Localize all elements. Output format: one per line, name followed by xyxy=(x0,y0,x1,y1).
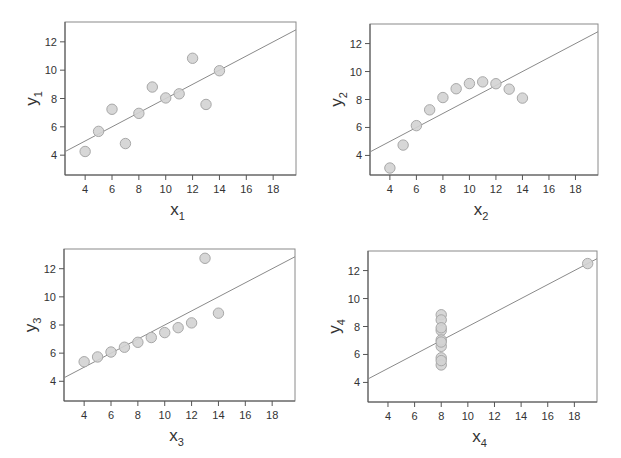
y-tick-label: 12 xyxy=(44,263,56,275)
x-tick-label: 12 xyxy=(185,409,197,421)
x-tick-label: 18 xyxy=(267,183,279,195)
data-point xyxy=(80,146,90,156)
data-point xyxy=(438,92,448,102)
y-tick-label: 8 xyxy=(50,319,56,331)
y-tick-label: 8 xyxy=(354,321,360,333)
x-tick-label: 16 xyxy=(239,409,251,421)
x-tick-label: 6 xyxy=(413,183,419,195)
y-tick-label: 4 xyxy=(354,376,360,388)
plot-frame xyxy=(370,24,598,175)
x-axis-label: x3 xyxy=(169,426,184,448)
y-tick-label: 8 xyxy=(51,93,57,105)
data-point xyxy=(491,79,501,89)
data-point xyxy=(107,104,117,114)
anscombe-quartet-chart: 46810121416184681012x1y14681012141618468… xyxy=(0,0,621,458)
y-tick-label: 10 xyxy=(350,66,362,78)
y-tick-label: 12 xyxy=(350,38,362,50)
data-point xyxy=(201,99,211,109)
data-point xyxy=(134,108,144,118)
data-point xyxy=(147,82,157,92)
x-tick-label: 18 xyxy=(569,183,581,195)
x-tick-label: 16 xyxy=(240,183,252,195)
data-point xyxy=(133,337,143,347)
data-point xyxy=(385,163,395,173)
data-point xyxy=(582,258,592,268)
data-point xyxy=(187,53,197,63)
x-tick-label: 14 xyxy=(516,183,528,195)
x-tick-label: 14 xyxy=(212,409,224,421)
data-point xyxy=(79,357,89,367)
y-tick-label: 6 xyxy=(51,121,57,133)
x-tick-label: 6 xyxy=(108,409,114,421)
data-point xyxy=(213,308,223,318)
y-tick-label: 6 xyxy=(354,348,360,360)
data-point xyxy=(106,347,116,357)
y-tick-label: 6 xyxy=(50,347,56,359)
scatter-panel-2: 46810121416184681012x2y2 xyxy=(327,24,598,222)
data-point xyxy=(517,93,527,103)
x-tick-label: 10 xyxy=(159,409,171,421)
x-axis-label: x1 xyxy=(170,200,185,222)
data-point xyxy=(411,120,421,130)
x-tick-label: 8 xyxy=(136,183,142,195)
x-tick-label: 18 xyxy=(266,409,278,421)
data-point xyxy=(93,126,103,136)
y-axis-label: y3 xyxy=(21,318,43,333)
data-point xyxy=(160,327,170,337)
data-point xyxy=(451,84,461,94)
y-tick-label: 4 xyxy=(356,149,362,161)
data-point xyxy=(146,332,156,342)
x-tick-label: 4 xyxy=(82,183,88,195)
data-point xyxy=(119,342,129,352)
x-tick-label: 14 xyxy=(515,410,527,422)
x-tick-label: 8 xyxy=(438,410,444,422)
data-point xyxy=(200,253,210,263)
x-tick-label: 18 xyxy=(568,410,580,422)
x-axis-label: x2 xyxy=(474,200,489,222)
x-tick-label: 10 xyxy=(463,183,475,195)
data-point xyxy=(436,323,446,333)
y-tick-label: 10 xyxy=(348,293,360,305)
x-tick-label: 8 xyxy=(440,183,446,195)
y-tick-label: 6 xyxy=(356,121,362,133)
data-point xyxy=(92,352,102,362)
regression-line xyxy=(370,32,598,152)
data-point xyxy=(424,105,434,115)
data-point xyxy=(173,322,183,332)
scatter-panel-3: 46810121416184681012x3y3 xyxy=(21,249,295,448)
x-tick-label: 4 xyxy=(81,409,87,421)
y-axis-label: y1 xyxy=(22,91,44,106)
y-tick-label: 10 xyxy=(44,291,56,303)
x-tick-label: 12 xyxy=(490,183,502,195)
x-tick-label: 6 xyxy=(412,410,418,422)
scatter-panel-4: 46810121416184681012x4y4 xyxy=(325,251,597,449)
data-point xyxy=(214,66,224,76)
x-tick-label: 16 xyxy=(542,410,554,422)
data-point xyxy=(436,337,446,347)
data-point xyxy=(477,77,487,87)
x-tick-label: 6 xyxy=(109,183,115,195)
data-point xyxy=(174,89,184,99)
y-tick-label: 4 xyxy=(50,375,56,387)
scatter-panel-1: 46810121416184681012x1y1 xyxy=(22,22,296,222)
x-tick-label: 14 xyxy=(213,183,225,195)
data-point xyxy=(186,318,196,328)
y-tick-label: 12 xyxy=(45,36,57,48)
x-tick-label: 16 xyxy=(543,183,555,195)
y-tick-label: 4 xyxy=(51,149,57,161)
data-point xyxy=(398,140,408,150)
data-point xyxy=(436,355,446,365)
x-tick-label: 10 xyxy=(462,410,474,422)
data-point xyxy=(161,93,171,103)
y-axis-label: y4 xyxy=(325,319,347,334)
plot-frame xyxy=(368,251,597,402)
data-point xyxy=(120,138,130,148)
y-tick-label: 8 xyxy=(356,94,362,106)
y-axis-label: y2 xyxy=(327,92,349,107)
x-tick-label: 8 xyxy=(135,409,141,421)
x-tick-label: 4 xyxy=(387,183,393,195)
x-tick-label: 12 xyxy=(488,410,500,422)
x-tick-label: 4 xyxy=(385,410,391,422)
y-tick-label: 12 xyxy=(348,265,360,277)
x-tick-label: 10 xyxy=(160,183,172,195)
